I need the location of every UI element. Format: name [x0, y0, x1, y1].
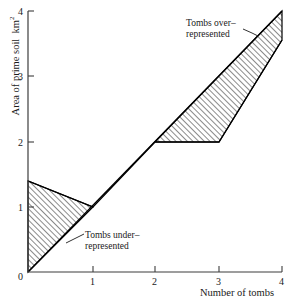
y-axis-title: Area of prime soil km2 [9, 6, 21, 126]
x-axis-title: Number of tombs [200, 288, 274, 299]
x-tick-label-4: 4 [279, 277, 284, 287]
y-axis-title-text: Area of prime soil [10, 39, 21, 116]
x-tick-label-2: 2 [152, 277, 157, 287]
annotation-tombs-under-represented: Tombs under– represented [85, 230, 139, 252]
y-tick-label-0: 0 [18, 272, 23, 282]
x-tick-label-3: 3 [216, 277, 221, 287]
y-tick-label-2: 2 [18, 138, 23, 148]
chart-figure: 4 3 2 1 0 1 2 3 4 Area of prime soil km2… [0, 0, 293, 303]
y-axis-unit-exponent: 2 [8, 17, 16, 21]
annotation-under-line1: Tombs under– [85, 230, 139, 241]
annotation-over-line2: represented [186, 29, 236, 40]
annotation-tombs-over-represented: Tombs over– represented [186, 18, 236, 40]
x-axis-ticks [93, 266, 282, 272]
annotation-over-line1: Tombs over– [186, 18, 236, 29]
y-axis-ticks [28, 11, 34, 207]
x-tick-label-1: 1 [90, 277, 95, 287]
annotation-under-line2: represented [85, 241, 139, 252]
y-tick-label-1: 1 [18, 203, 23, 213]
annotation-under-leader [66, 234, 84, 243]
annotation-over-leader [243, 29, 258, 36]
y-axis-unit: km [10, 20, 21, 33]
chart-plot-area [0, 0, 293, 303]
